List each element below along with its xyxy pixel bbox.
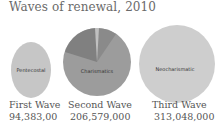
pie-label-pentecostal: Pentecostal — [17, 67, 46, 73]
first-wave-value: 94,383,00 — [9, 111, 57, 122]
pie-second-wave: Charismatics — [63, 28, 131, 96]
second-wave-name: Second Wave — [68, 99, 132, 110]
third-wave-name: Third Wave — [152, 99, 207, 110]
pie-first-wave: Pentecostal — [11, 42, 51, 98]
pie-third-wave: Neocharismatic — [139, 25, 215, 103]
first-wave-name: First Wave — [9, 99, 60, 110]
pie-label-neocharismatic: Neocharismatic — [156, 66, 195, 72]
third-wave-value: 313,048,000 — [154, 111, 214, 122]
second-wave-value: 206,579,000 — [70, 111, 130, 122]
pie-label-charismatics: Charismatics — [81, 68, 114, 74]
